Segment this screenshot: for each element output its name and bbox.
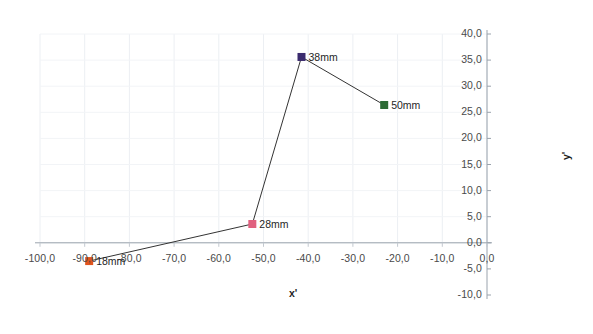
y-tick-label: 25,0	[434, 105, 482, 117]
y-tick-label: 10,0	[434, 184, 482, 196]
x-axis-title: x'	[289, 287, 297, 299]
y-tick-label: 35,0	[434, 53, 482, 65]
y-tick-label: 5,0	[434, 210, 482, 222]
x-tick-label: -70,0	[162, 252, 186, 264]
data-point-marker[interactable]	[297, 53, 305, 61]
y-tick-label: 40,0	[434, 27, 482, 39]
data-point-marker[interactable]	[248, 220, 256, 228]
data-point-label: 50mm	[391, 99, 420, 111]
data-point-label: 28mm	[259, 218, 288, 230]
y-tick-label: -10,0	[434, 288, 482, 300]
x-tick-label: -20,0	[385, 252, 409, 264]
x-tick-label: -40,0	[296, 252, 320, 264]
series-line	[89, 57, 384, 261]
y-tick-label: -5,0	[434, 262, 482, 274]
y-tick-label: 20,0	[434, 131, 482, 143]
x-tick-label: -60,0	[207, 252, 231, 264]
x-tick-label: -100,0	[25, 252, 55, 264]
y-tick-label: 30,0	[434, 79, 482, 91]
y-tick-label: 0,0	[434, 236, 482, 248]
data-point-label: 38mm	[308, 51, 337, 63]
scatter-line-chart: -100,0-90,0-80,0-70,0-60,0-50,0-40,0-30,…	[0, 0, 593, 334]
y-tick-label: 15,0	[434, 158, 482, 170]
x-tick-label: -90,0	[72, 252, 96, 264]
data-point-marker[interactable]	[380, 101, 388, 109]
plot-area	[0, 0, 593, 334]
y-axis-title: y'	[560, 152, 572, 160]
data-point-label: 18mm	[96, 255, 125, 267]
x-tick-label: -30,0	[341, 252, 365, 264]
x-tick-label: -50,0	[251, 252, 275, 264]
